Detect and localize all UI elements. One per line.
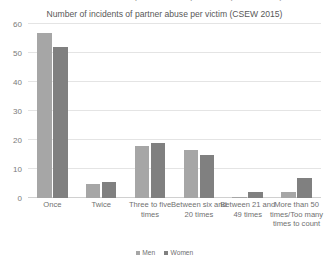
y-tick-label: 50 xyxy=(13,49,22,58)
plot-area xyxy=(28,24,321,198)
clipped-title-strip: Number of incidents of partner abuse per… xyxy=(0,0,329,9)
bar-women xyxy=(297,178,312,198)
y-tick-label: 40 xyxy=(13,78,22,87)
bar-group xyxy=(175,24,224,198)
y-tick-label: 30 xyxy=(13,107,22,116)
bar-women xyxy=(53,47,68,198)
bar-group xyxy=(77,24,126,198)
bar-men xyxy=(232,197,247,198)
bar-women xyxy=(200,155,215,199)
bar-men xyxy=(37,33,52,198)
bar-men xyxy=(135,146,150,198)
legend-item-women[interactable]: Women xyxy=(164,249,193,256)
bar-women xyxy=(151,143,166,198)
bar-group xyxy=(126,24,175,198)
bar-group xyxy=(28,24,77,198)
legend-label: Women xyxy=(171,249,194,256)
bar-men xyxy=(184,150,199,198)
y-tick-label: 10 xyxy=(13,165,22,174)
x-axis-labels: OnceTwiceThree to five timesBetween six … xyxy=(28,200,321,248)
legend-swatch-icon xyxy=(164,251,168,255)
x-tick-label: More than 50 times/Too many times to cou… xyxy=(268,200,325,229)
bar-group xyxy=(272,24,321,198)
legend-item-men[interactable]: Men xyxy=(136,249,155,256)
bars-layer xyxy=(28,24,321,198)
bar-group xyxy=(223,24,272,198)
bar-women xyxy=(102,182,117,198)
bar-women xyxy=(248,192,263,198)
y-tick-label: 20 xyxy=(13,136,22,145)
y-tick-label: 60 xyxy=(13,20,22,29)
y-tick-label: 0 xyxy=(18,194,22,203)
bar-men xyxy=(86,184,101,199)
legend-label: Men xyxy=(142,249,155,256)
chart-title: Number of incidents of partner abuse per… xyxy=(0,9,329,19)
clipped-title-text: Number of incidents of partner abuse per… xyxy=(0,0,329,1)
bar-men xyxy=(281,192,296,198)
legend-swatch-icon xyxy=(136,251,140,255)
y-axis-labels: 0102030405060 xyxy=(0,24,26,198)
chart-legend: MenWomen xyxy=(0,249,329,256)
